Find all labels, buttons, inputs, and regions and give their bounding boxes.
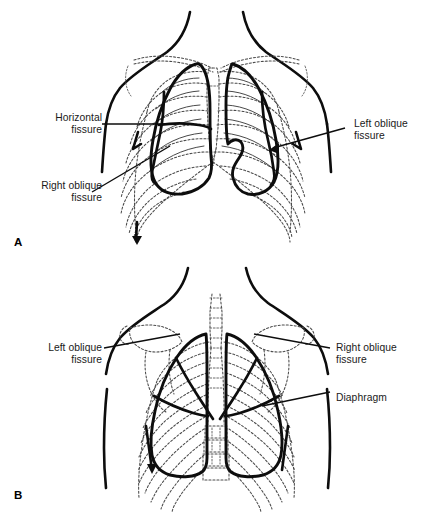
rib-r10 [134, 192, 184, 238]
rib-detail-l6 [222, 146, 277, 172]
thorax-lateral-right [135, 112, 148, 232]
panel-a-drawing [92, 12, 345, 245]
panel-b-drawing [104, 268, 330, 512]
leader-left-oblique-fissure-b [104, 334, 180, 348]
cervical-spine-b [210, 294, 212, 348]
rib-r9 [129, 179, 196, 234]
thorax-lateral-left [279, 112, 292, 232]
rib-detail-r1 [161, 78, 199, 93]
label-left-oblique-fissure-b: Left oblique fissure [16, 342, 102, 365]
label-diaphragm-b: Diaphragm [336, 392, 422, 404]
rib-r8 [126, 166, 206, 227]
pleural-arrow-right [132, 236, 142, 245]
arm-right-outline [327, 124, 331, 172]
label-left-oblique-fissure: Left oblique fissure [354, 118, 428, 141]
label-horizontal-fissure: Horizontal fissure [14, 112, 102, 135]
label-right-oblique-fissure: Right oblique fissure [8, 180, 102, 203]
rib-pb-r11 [229, 455, 272, 509]
spinous-processes-b [210, 298, 222, 388]
rib-pb-l2 [150, 352, 208, 397]
rib-l3 [219, 96, 296, 145]
arm-left-outline-b [104, 389, 107, 488]
rib-pb-l11 [161, 455, 204, 509]
panel-letter-a: A [14, 236, 23, 248]
rib-pb-r2 [225, 352, 283, 397]
panel-letter-b: B [14, 489, 23, 501]
arm-right-outline-b [327, 389, 330, 488]
cervical-spine-b2 [220, 294, 222, 348]
rib-pb-l10 [151, 442, 204, 502]
leader-right-oblique-fissure-b [254, 334, 330, 348]
neck-right-outline [243, 12, 327, 124]
rib-detail-l3 [226, 105, 273, 125]
arm-left-outline [102, 124, 106, 172]
rib-l9 [230, 179, 297, 234]
anatomy-figure: Horizontal fissure Right oblique fissure… [0, 0, 428, 512]
label-right-oblique-fissure-b: Right oblique fissure [336, 342, 428, 365]
rib-pb-r10 [229, 442, 282, 502]
anatomy-illustration [0, 0, 428, 512]
rib-l10 [242, 192, 292, 238]
rib-r3 [130, 96, 207, 145]
pleural-arrow-left-b [147, 464, 157, 474]
right-lung-outline-b [226, 334, 282, 477]
